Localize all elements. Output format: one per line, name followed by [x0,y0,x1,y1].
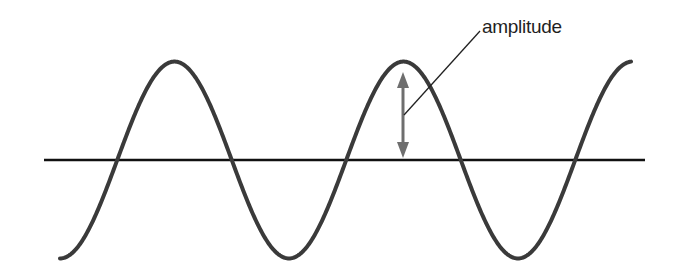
arrow-up-icon [397,72,409,88]
amplitude-arrow [397,72,409,158]
arrow-down-icon [397,142,409,158]
amplitude-label: amplitude [482,16,562,37]
amplitude-diagram: amplitude [0,0,677,277]
leader-line [404,31,480,115]
